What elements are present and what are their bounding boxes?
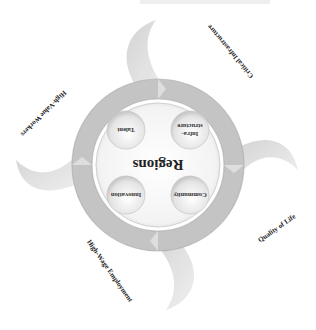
svg-text:Community: Community — [173, 192, 207, 199]
svg-text:structure: structure — [177, 123, 203, 130]
node-innovation: Innovation — [107, 176, 145, 214]
svg-text:Talent: Talent — [116, 127, 134, 134]
svg-text:Infra-: Infra- — [182, 131, 199, 138]
svg-text:Innovation: Innovation — [110, 192, 141, 199]
node-community: Community — [171, 176, 209, 214]
node-infrastructure: Infra- structure — [171, 111, 209, 149]
label-quality-of-life: Quality of Life — [257, 212, 298, 244]
label-high-value-workers: High-Value Workers — [19, 89, 68, 138]
node-talent: Talent — [107, 111, 145, 149]
label-high-wage-employment: High-Wage Employment — [85, 238, 134, 304]
center-label: Regions — [132, 157, 183, 173]
label-critical-infrastructure: Critical Infrastructure — [206, 23, 256, 80]
regions-cycle-diagram: Regions Community Innovation Talent Infr… — [0, 0, 316, 330]
